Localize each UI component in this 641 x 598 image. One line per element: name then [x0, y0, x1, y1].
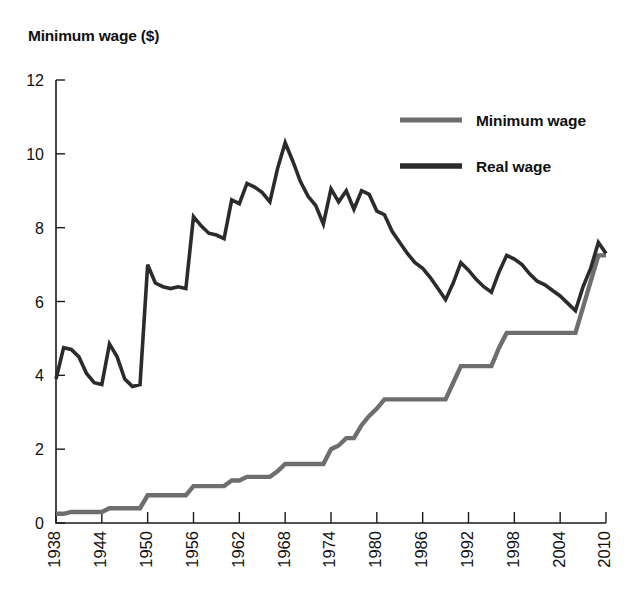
- legend-label-minimum-wage: Minimum wage: [476, 112, 586, 129]
- x-tick-label: 1968: [275, 531, 293, 568]
- x-tick-label: 1992: [458, 531, 476, 568]
- chart-container: Minimum wage ($) 024681012 1938194419501…: [0, 0, 641, 598]
- y-tick-label: 2: [35, 441, 44, 458]
- x-tick-label: 1974: [320, 531, 338, 568]
- legend-label-real-wage: Real wage: [476, 158, 551, 175]
- y-tick-label: 8: [35, 220, 44, 237]
- axis-lines: [56, 80, 606, 523]
- x-tick-label: 2004: [550, 531, 568, 568]
- x-tick-label: 1998: [504, 531, 522, 568]
- y-tick-label: 4: [35, 367, 44, 384]
- x-tick-label: 1980: [366, 531, 384, 568]
- x-tick-label: 1986: [412, 531, 430, 568]
- x-axis-ticks: 1938194419501956196219681974198019861992…: [45, 512, 613, 568]
- series-line-real-wage: [56, 143, 606, 387]
- x-tick-label: 1962: [229, 531, 247, 568]
- y-tick-label: 12: [26, 72, 44, 89]
- x-tick-label: 1944: [91, 531, 109, 568]
- chart-legend: Minimum wageReal wage: [400, 112, 586, 175]
- y-tick-label: 10: [26, 146, 44, 163]
- y-tick-label: 0: [35, 515, 44, 532]
- data-series-group: [56, 143, 606, 514]
- x-tick-label: 1956: [183, 531, 201, 568]
- chart-plot-area: 024681012 193819441950195619621968197419…: [0, 0, 641, 598]
- x-tick-label: 2010: [595, 531, 613, 568]
- y-axis-ticks: 024681012: [26, 72, 65, 532]
- x-tick-label: 1950: [137, 531, 155, 568]
- y-tick-label: 6: [35, 294, 44, 311]
- x-tick-label: 1938: [45, 531, 63, 568]
